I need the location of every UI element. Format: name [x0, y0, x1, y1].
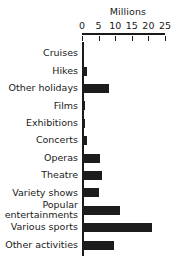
category-label: Popular entertainments [0, 200, 78, 221]
x-axis-tick-labels: 0510152025 [0, 20, 174, 32]
x-axis-line [82, 33, 165, 35]
x-tick-mark-25 [165, 36, 166, 41]
category-label: Other holidays [0, 83, 78, 94]
x-tick-label-25: 25 [159, 20, 171, 31]
bar [82, 171, 102, 180]
x-tick-mark-10 [115, 36, 116, 41]
x-tick-label-10: 10 [109, 20, 121, 31]
bar [82, 154, 100, 163]
bar [82, 119, 85, 128]
category-label: Theatre [0, 170, 78, 181]
x-axis-ticks [0, 33, 174, 42]
bar [82, 49, 84, 58]
bar [82, 241, 114, 250]
x-tick-mark-15 [132, 36, 133, 41]
bar [82, 136, 87, 145]
category-label: Films [0, 101, 78, 112]
bar [82, 101, 85, 110]
bar [82, 206, 120, 215]
x-tick-label-15: 15 [126, 20, 138, 31]
category-label: Various sports [0, 222, 78, 233]
category-label: Operas [0, 153, 78, 164]
category-label: Other activities [0, 240, 78, 251]
category-label: Concerts [0, 135, 78, 146]
axis-unit-label: Millions [82, 6, 174, 17]
x-tick-mark-0 [82, 36, 83, 41]
x-tick-label-5: 5 [96, 20, 102, 31]
bar [82, 188, 99, 197]
x-tick-label-20: 20 [142, 20, 154, 31]
category-label: Hikes [0, 66, 78, 77]
bar [82, 223, 152, 232]
bar [82, 67, 87, 76]
plot-area: CruisesHikesOther holidaysFilmsExhibitio… [0, 42, 174, 264]
category-label: Variety shows [0, 188, 78, 199]
bar [82, 84, 109, 93]
x-tick-label-0: 0 [79, 20, 85, 31]
bar-chart: Millions 0510152025 CruisesHikesOther ho… [0, 0, 174, 270]
category-label: Cruises [0, 48, 78, 59]
x-tick-mark-5 [99, 36, 100, 41]
x-tick-mark-20 [148, 36, 149, 41]
category-label: Exhibitions [0, 118, 78, 129]
